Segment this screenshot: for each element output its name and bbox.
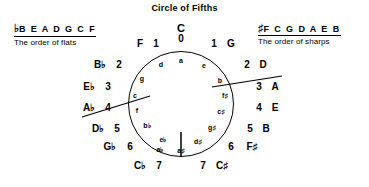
major-key-E-count: 4	[256, 102, 262, 113]
major-key-G[interactable]: G	[227, 38, 235, 49]
major-key-Fsharp-count: 6	[228, 141, 234, 152]
major-key-A[interactable]: A	[271, 81, 278, 92]
minor-key-f-sharp[interactable]: f♯	[222, 92, 228, 99]
minor-key-a[interactable]: a	[179, 57, 183, 64]
major-key-G-count: 1	[211, 38, 217, 49]
minor-key-f[interactable]: f	[136, 107, 138, 114]
minor-key-b-flat[interactable]: b♭	[143, 122, 150, 130]
major-key-Csharp[interactable]: C♯	[216, 160, 228, 171]
major-key-Fsharp[interactable]: F♯	[246, 141, 257, 152]
major-key-B[interactable]: B	[262, 123, 269, 134]
minor-key-a-sharp[interactable]: a♯	[177, 147, 184, 154]
major-key-F-count: 1	[153, 38, 159, 49]
circle-ring-wrap	[128, 51, 234, 157]
page-title: Circle of Fifths	[0, 3, 369, 13]
major-key-Aflat[interactable]: A♭	[83, 102, 95, 113]
major-key-A-count: 3	[256, 81, 262, 92]
minor-key-a-flat[interactable]: a♭	[157, 146, 164, 154]
major-key-Csharp-count: 7	[200, 160, 206, 171]
major-key-Bflat-count: 2	[116, 59, 122, 70]
major-key-Dflat-count: 5	[114, 123, 120, 134]
major-key-F[interactable]: F	[137, 38, 143, 49]
major-key-Aflat-count: 4	[105, 102, 111, 113]
minor-key-g-sharp[interactable]: g♯	[208, 124, 216, 131]
minor-key-e[interactable]: e	[202, 62, 206, 69]
minor-key-c-sharp[interactable]: c♯	[217, 108, 224, 115]
minor-key-d-sharp[interactable]: d♯	[194, 138, 202, 145]
minor-key-e-flat[interactable]: e♭	[160, 136, 167, 144]
major-key-Eflat-count: 3	[105, 81, 111, 92]
major-key-Eflat[interactable]: E♭	[83, 81, 95, 92]
major-key-C-count: 0	[177, 34, 185, 44]
major-key-D-count: 2	[244, 59, 250, 70]
major-key-Cflat[interactable]: C♭	[134, 160, 146, 171]
minor-key-g[interactable]: g	[140, 75, 144, 82]
major-key-Bflat[interactable]: B♭	[94, 59, 106, 70]
divider-lines	[82, 29, 282, 187]
major-key-Gflat-count: 6	[127, 141, 133, 152]
minor-key-d[interactable]: d	[159, 61, 163, 68]
minor-key-c[interactable]: c	[133, 92, 137, 99]
major-key-C[interactable]: C 0	[177, 23, 185, 44]
circle-of-fifths-diagram: Circle of Fifths ♭B E A D G C F The orde…	[0, 0, 369, 187]
major-key-Dflat[interactable]: D♭	[92, 123, 104, 134]
minor-key-b[interactable]: b	[218, 77, 222, 84]
major-key-D[interactable]: D	[259, 59, 266, 70]
major-key-Gflat[interactable]: G♭	[104, 141, 117, 152]
major-key-E[interactable]: E	[272, 102, 279, 113]
major-key-B-count: 5	[247, 123, 253, 134]
major-key-Cflat-count: 7	[156, 160, 162, 171]
